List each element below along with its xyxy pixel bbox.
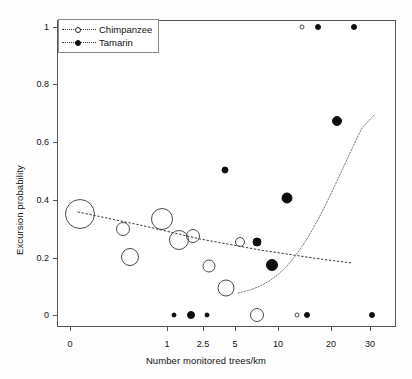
x-axis-title: Number monitored trees/km bbox=[0, 355, 412, 366]
data-point-tamarin bbox=[332, 116, 342, 126]
y-tick-mark bbox=[53, 315, 57, 316]
data-point-tamarin bbox=[304, 312, 310, 318]
data-point-tamarin bbox=[315, 24, 321, 30]
chart-legend: Chimpanzee Tamarin bbox=[58, 19, 159, 53]
data-point-chimpanzee bbox=[121, 248, 139, 266]
chart-figure: 012.55102030 10.80.60.40.20 Number monit… bbox=[0, 0, 412, 379]
data-point-chimpanzee bbox=[65, 199, 95, 229]
data-point-tamarin bbox=[253, 238, 262, 247]
x-tick-mark bbox=[370, 327, 371, 331]
data-point-chimpanzee bbox=[203, 260, 216, 273]
y-tick-label: 1 bbox=[44, 22, 49, 32]
data-point-chimpanzee bbox=[235, 237, 245, 247]
legend-item-chimpanzee[interactable]: Chimpanzee bbox=[62, 23, 152, 36]
filled-circle-icon bbox=[62, 37, 96, 48]
data-point-tamarin bbox=[351, 24, 357, 30]
legend-item-tamarin[interactable]: Tamarin bbox=[62, 36, 152, 49]
data-point-chimpanzee bbox=[294, 313, 299, 318]
x-tick-label: 2.5 bbox=[197, 339, 210, 349]
data-point-chimpanzee bbox=[250, 308, 264, 322]
x-tick-mark bbox=[167, 327, 168, 331]
open-circle-icon bbox=[62, 24, 96, 35]
y-tick-mark bbox=[53, 200, 57, 201]
y-axis-title: Excursion probability bbox=[14, 165, 25, 255]
data-point-tamarin bbox=[187, 311, 195, 319]
x-tick-mark bbox=[278, 327, 279, 331]
y-tick-label: 0.8 bbox=[36, 79, 49, 89]
data-point-tamarin bbox=[221, 166, 228, 173]
x-tick-mark bbox=[331, 327, 332, 331]
y-tick-label: 0 bbox=[44, 310, 49, 320]
y-tick-mark bbox=[53, 142, 57, 143]
x-tick-mark bbox=[70, 327, 71, 331]
y-tick-mark bbox=[53, 27, 57, 28]
y-tick-mark bbox=[53, 84, 57, 85]
data-point-chimpanzee bbox=[218, 279, 235, 296]
data-point-chimpanzee bbox=[299, 25, 304, 30]
x-tick-mark bbox=[235, 327, 236, 331]
x-tick-label: 20 bbox=[326, 339, 336, 349]
x-tick-label: 5 bbox=[232, 339, 237, 349]
y-tick-label: 0.6 bbox=[36, 137, 49, 147]
data-point-tamarin bbox=[282, 193, 293, 204]
y-tick-label: 0.2 bbox=[36, 253, 49, 263]
data-point-tamarin bbox=[204, 313, 209, 318]
x-tick-label: 30 bbox=[365, 339, 375, 349]
data-point-chimpanzee bbox=[151, 208, 173, 230]
x-tick-label: 1 bbox=[164, 339, 169, 349]
y-tick-mark bbox=[53, 258, 57, 259]
data-point-tamarin bbox=[172, 313, 177, 318]
y-tick-label: 0.4 bbox=[36, 195, 49, 205]
x-tick-label: 0 bbox=[67, 339, 72, 349]
data-point-chimpanzee bbox=[186, 229, 200, 243]
legend-label-tamarin: Tamarin bbox=[96, 37, 133, 48]
legend-label-chimpanzee: Chimpanzee bbox=[96, 24, 152, 35]
data-point-tamarin bbox=[369, 312, 375, 318]
x-tick-mark bbox=[203, 327, 204, 331]
data-point-chimpanzee bbox=[116, 222, 130, 236]
x-tick-label: 10 bbox=[273, 339, 283, 349]
data-point-tamarin bbox=[266, 259, 278, 271]
